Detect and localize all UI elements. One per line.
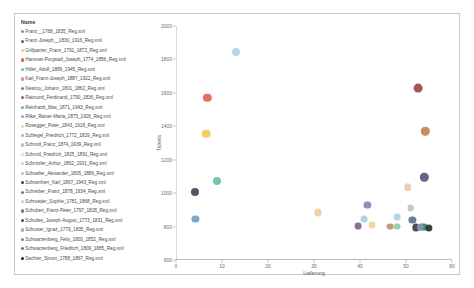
y-axis-tick-label: 1200 (161, 157, 172, 163)
plot-area: Tickets Lieferung 6008001000120014001600… (176, 26, 452, 260)
x-axis-tick-mark (222, 260, 223, 263)
legend-item-label: Schreiber_Franz_1878_1934_Reg.xml (25, 187, 105, 196)
scatter-point[interactable] (192, 215, 199, 222)
legend-item-label: Schoenherr_Karl_1867_1943_Reg.xml (25, 178, 105, 187)
legend-item-label: Schwarzenberg_Felix_1800_1852_Reg.xml (25, 235, 115, 244)
legend-marker-icon (21, 238, 24, 241)
legend-item[interactable]: Rosegger_Peter_1843_1918_Reg.xml (20, 121, 142, 130)
legend-marker-icon (21, 96, 24, 99)
scatter-point[interactable] (393, 223, 400, 230)
legend-item[interactable]: Franz__1768_1835_Reg.xml (20, 27, 142, 36)
x-axis-tick-label: 50 (403, 263, 409, 269)
legend-marker-icon (21, 68, 24, 71)
scatter-point[interactable] (203, 94, 211, 102)
y-axis-tick-label: 1000 (161, 190, 172, 196)
y-axis-line (176, 26, 177, 260)
y-axis-tick-label: 2000 (161, 23, 172, 29)
legend-item-label: Grillparzer_Franz_1791_1872_Reg.xml (25, 46, 106, 55)
legend-item[interactable]: Schuster_Ignaz_1779_1835_Reg.xml (20, 225, 142, 234)
x-axis-tick-label: 30 (311, 263, 317, 269)
scatter-point[interactable] (232, 48, 240, 56)
x-axis-tick-label: 60 (449, 263, 455, 269)
legend-item[interactable]: Schoeller_Alexander_1805_1886_Reg.xml (20, 169, 142, 178)
legend-item[interactable]: Schlegel_Friedrich_1772_1829_Reg.xml (20, 131, 142, 140)
scatter-point[interactable] (369, 221, 376, 228)
legend-item[interactable]: Grillparzer_Franz_1791_1872_Reg.xml (20, 46, 142, 55)
x-axis-tick-label: 0 (175, 263, 178, 269)
legend-item[interactable]: Raimund_Ferdinand_1790_1836_Reg.xml (20, 93, 142, 102)
legend-marker-icon (21, 209, 24, 212)
legend-marker-icon (21, 153, 24, 156)
y-axis-tick-mark (173, 92, 176, 93)
legend-item[interactable]: Nestroy_Johann_1801_1862_Reg.xml (20, 84, 142, 93)
legend-marker-icon (21, 30, 24, 33)
legend-marker-icon (21, 134, 24, 137)
scatter-point[interactable] (213, 177, 221, 185)
scatter-point[interactable] (421, 127, 429, 135)
y-axis-tick-label: 1600 (161, 90, 172, 96)
legend-item[interactable]: Schubert_Franz-Peter_1797_1828_Reg.xml (20, 206, 142, 215)
legend-item[interactable]: Schwarzenberg_Friedrich_1809_1885_Reg.xm… (20, 244, 142, 253)
legend-marker-icon (21, 87, 24, 90)
x-axis-tick-mark (452, 260, 453, 263)
legend-marker-icon (21, 191, 24, 194)
legend-item-label: Schwarzenberg_Friedrich_1809_1885_Reg.xm… (25, 244, 123, 253)
scatter-point[interactable] (414, 83, 423, 92)
legend-item[interactable]: Schultes_Joseph-August_1773_1831_Reg.xml (20, 216, 142, 225)
legend-item-label: Reinhardt_Max_1871_1943_Reg.xml (25, 103, 102, 112)
y-axis-tick-label: 1400 (161, 123, 172, 129)
legend-item[interactable]: Hitler_Adolf_1889_1945_Reg.xml (20, 65, 142, 74)
legend-item-label: Schroeder_Sophie_1781_1868_Reg.xml (25, 197, 109, 206)
y-axis-tick-label: 800 (164, 224, 172, 230)
scatter-point[interactable] (425, 224, 432, 231)
legend-marker-icon (21, 58, 24, 61)
scatter-point[interactable] (394, 214, 401, 221)
scatter-point[interactable] (407, 205, 414, 212)
legend-item[interactable]: Schnitzler_Arthur_1862_1931_Reg.xml (20, 159, 142, 168)
scatter-point[interactable] (202, 130, 210, 138)
plot-wrapper: Tickets Lieferung 6008001000120014001600… (142, 18, 456, 272)
x-axis-tick-label: 10 (219, 263, 225, 269)
legend-marker-icon (21, 49, 24, 52)
legend-marker-icon (21, 77, 24, 80)
y-axis-tick-mark (173, 26, 176, 27)
legend-marker-icon (21, 247, 24, 250)
x-axis-tick-label: 20 (265, 263, 271, 269)
scatter-point[interactable] (409, 216, 416, 223)
legend-item[interactable]: Schwarzenberg_Felix_1800_1852_Reg.xml (20, 235, 142, 244)
legend-item[interactable]: Schoenherr_Karl_1867_1943_Reg.xml (20, 178, 142, 187)
legend-item[interactable]: Schmid_Friedrich_1825_1891_Reg.xml (20, 150, 142, 159)
legend-item[interactable]: Schreiber_Franz_1878_1934_Reg.xml (20, 187, 142, 196)
legend-item[interactable]: Rilke_Rainer-Maria_1875_1926_Reg.xml (20, 112, 142, 121)
x-axis-tick-mark (314, 260, 315, 263)
legend-title: Name (20, 18, 142, 26)
scatter-point[interactable] (364, 201, 371, 208)
legend-marker-icon (21, 172, 24, 175)
x-axis-tick-mark (176, 260, 177, 263)
legend-item-label: Franz__1768_1835_Reg.xml (25, 27, 85, 36)
legend-item-label: Rosegger_Peter_1843_1918_Reg.xml (25, 121, 104, 130)
legend-item[interactable]: Karl_Franz-Joseph_1887_1922_Reg.xml (20, 74, 142, 83)
legend-marker-icon (21, 106, 24, 109)
scatter-point[interactable] (404, 183, 412, 191)
scatter-point[interactable] (355, 222, 362, 229)
legend-item[interactable]: Schmid_Franz_1874_1939_Reg.xml (20, 140, 142, 149)
legend-marker-icon (21, 162, 24, 165)
legend-item[interactable]: Schroeder_Sophie_1781_1868_Reg.xml (20, 197, 142, 206)
scatter-point[interactable] (420, 173, 428, 181)
scatter-point[interactable] (361, 216, 368, 223)
chart-legend: Name Franz__1768_1835_Reg.xmlFranz-Josep… (20, 18, 142, 270)
legend-item[interactable]: Franz-Joseph__1830_1916_Reg.xml (20, 36, 142, 45)
x-axis-tick-mark (360, 260, 361, 263)
scatter-point[interactable] (314, 209, 321, 216)
legend-marker-icon (21, 115, 24, 118)
scatter-point[interactable] (191, 188, 199, 196)
legend-item-label: Schmid_Friedrich_1825_1891_Reg.xml (25, 150, 107, 159)
legend-marker-icon (21, 228, 24, 231)
legend-item-label: Karl_Franz-Joseph_1887_1922_Reg.xml (25, 74, 110, 83)
legend-item-label: Hitler_Adolf_1889_1945_Reg.xml (25, 65, 95, 74)
legend-item[interactable]: Sechter_Simon_1788_1867_Reg.xml (20, 254, 142, 263)
y-axis-tick-label: 1800 (161, 56, 172, 62)
legend-item[interactable]: Hammer-Purgstall_Joseph_1774_1856_Reg.xm… (20, 55, 142, 64)
legend-item[interactable]: Reinhardt_Max_1871_1943_Reg.xml (20, 103, 142, 112)
